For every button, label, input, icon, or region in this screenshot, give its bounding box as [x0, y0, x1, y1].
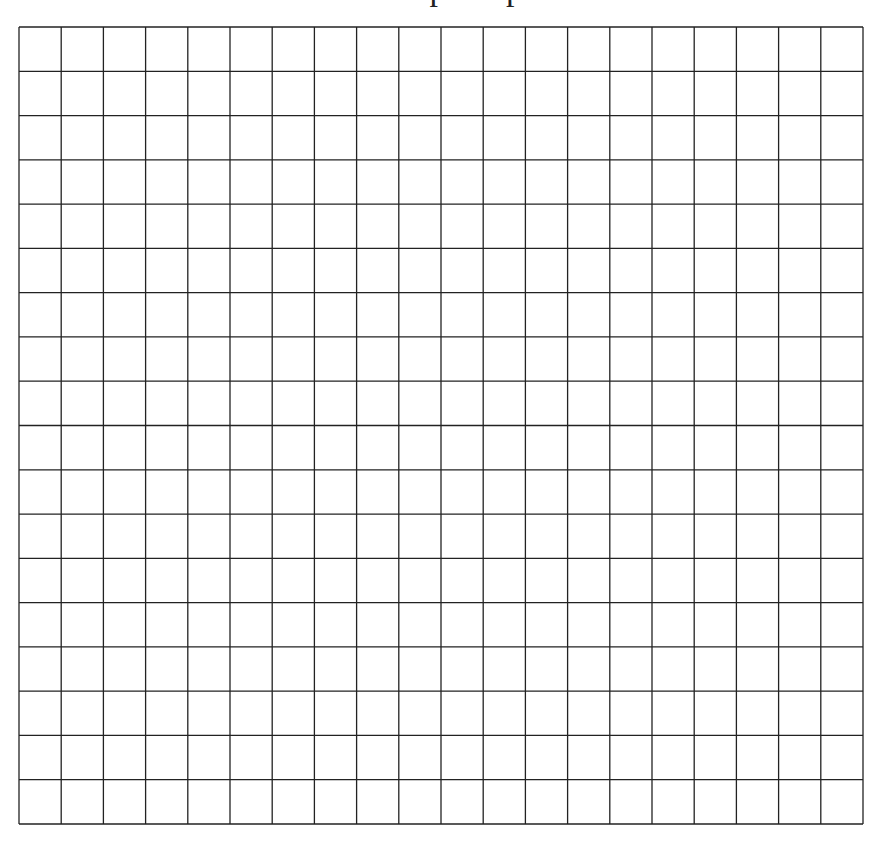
grid — [18, 26, 864, 826]
page-title-cropped: Graph Paper Grid — [0, 0, 879, 6]
